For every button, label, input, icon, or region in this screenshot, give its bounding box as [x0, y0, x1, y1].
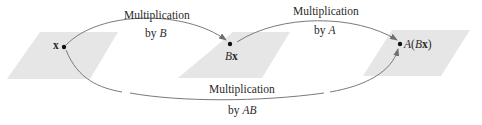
point-bx-dot — [228, 42, 232, 46]
label-by-a-line1: Multiplication — [293, 6, 359, 18]
label-by-a-var: A — [328, 24, 335, 36]
label-by-b-prefix: by — [145, 27, 159, 39]
point-abx-matrix-a: A — [404, 38, 411, 50]
label-by-b-line1: Multiplication — [124, 10, 190, 22]
label-by-ab-line2: by AB — [228, 105, 256, 117]
label-by-b-line2: by B — [145, 28, 166, 40]
label-by-ab-line1: Multiplication — [209, 84, 275, 96]
point-abx-close: ) — [428, 38, 432, 50]
composition-diagram: x Bx A(Bx) Multiplication by B Multiplic… — [0, 0, 482, 125]
label-by-a-prefix: by — [314, 24, 328, 36]
point-abx-label: A(Bx) — [404, 39, 432, 51]
domain-plane — [7, 32, 118, 79]
point-x-label: x — [53, 40, 59, 52]
point-bx-matrix: B — [225, 50, 232, 62]
point-bx-vector: x — [232, 50, 238, 62]
label-by-b-var: B — [159, 27, 166, 39]
label-by-ab-var: AB — [242, 104, 256, 116]
label-by-ab-prefix: by — [228, 104, 242, 116]
point-abx-matrix: B — [415, 38, 422, 50]
label-by-a-line2: by A — [314, 25, 335, 37]
point-abx-dot — [398, 42, 402, 46]
point-x-dot — [62, 45, 66, 49]
point-bx-label: Bx — [225, 51, 238, 63]
codomain-plane — [363, 30, 470, 76]
